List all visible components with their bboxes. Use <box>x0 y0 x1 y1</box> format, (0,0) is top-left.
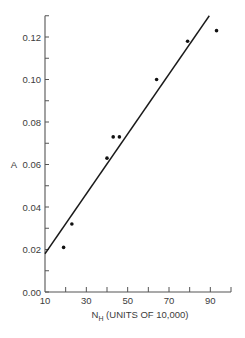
x-tick-label: 50 <box>122 295 133 306</box>
y-tick-label: 0.08 <box>23 117 42 128</box>
regression-line <box>45 16 209 254</box>
y-axis-title: A <box>11 159 18 170</box>
data-point <box>215 29 219 33</box>
x-tick-label: 30 <box>81 295 92 306</box>
fit-line <box>45 16 209 254</box>
data-points <box>62 29 219 249</box>
y-tick-label: 0.12 <box>23 32 42 43</box>
y-axis: 0.000.020.040.060.080.100.12 <box>23 16 50 298</box>
data-point <box>105 156 109 160</box>
data-point <box>118 135 122 139</box>
y-tick-label: 0.10 <box>23 74 42 85</box>
data-point <box>70 222 74 226</box>
x-tick-label: 10 <box>40 295 51 306</box>
clipped-caption <box>0 333 245 338</box>
data-point <box>186 39 190 43</box>
y-tick-label: 0.02 <box>23 244 42 255</box>
x-tick-label: 90 <box>205 295 216 306</box>
x-axis-title-rest: (UNITS OF 10,000) <box>103 309 188 320</box>
x-axis: 1030507090 <box>40 287 231 306</box>
y-tick-label: 0.04 <box>23 202 42 213</box>
data-point <box>62 246 66 250</box>
x-axis-title: NH (UNITS OF 10,000) <box>92 309 189 322</box>
x-tick-label: 70 <box>164 295 175 306</box>
y-tick-label: 0.00 <box>23 287 42 298</box>
scatter-chart: 0.000.020.040.060.080.100.12 1030507090 … <box>0 0 245 338</box>
data-point <box>155 78 159 82</box>
y-tick-label: 0.06 <box>23 159 42 170</box>
data-point <box>111 135 115 139</box>
